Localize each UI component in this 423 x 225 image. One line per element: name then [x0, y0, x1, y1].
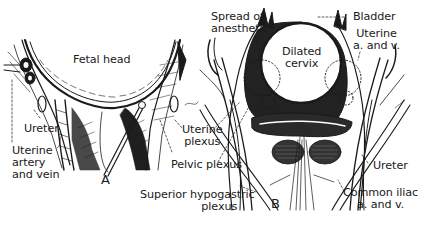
- label-line: anesthetic: [211, 23, 269, 35]
- anatomical-figure: Fetal head Ureter Uterine artery and vei…: [0, 0, 423, 225]
- label-uterine-plexus: Uterine plexus: [182, 124, 222, 148]
- label-line: plexus: [182, 136, 222, 148]
- label-fetal-head: Fetal head: [73, 54, 131, 66]
- label-uterine-artery-vein: Uterine artery and vein: [12, 145, 60, 181]
- label-line: Superior hypogastric: [140, 189, 255, 201]
- label-dilated-cervix: Dilated cervix: [282, 46, 321, 70]
- label-ureter-b: Ureter: [373, 160, 408, 172]
- label-line: and vein: [12, 169, 60, 181]
- label-superior-hypogastric-plexus: Superior hypogastric plexus: [140, 189, 255, 213]
- label-line: plexus: [140, 201, 255, 213]
- label-ureter-a: Ureter: [24, 123, 59, 135]
- label-line: cervix: [282, 58, 321, 70]
- panel-letter-a: A: [101, 174, 110, 186]
- label-spread-of-anesthetic: Spread of anesthetic: [211, 11, 269, 35]
- panel-letter-b: B: [271, 198, 280, 210]
- label-common-iliac-a-and-v: Common iliac a. and v.: [343, 187, 418, 211]
- label-pelvic-plexus: Pelvic plexus: [171, 159, 242, 171]
- label-line: a. and v.: [343, 199, 418, 211]
- label-bladder: Bladder: [353, 11, 396, 23]
- label-line: a. and v.: [353, 40, 400, 52]
- label-uterine-a-and-v: Uterine a. and v.: [353, 28, 400, 52]
